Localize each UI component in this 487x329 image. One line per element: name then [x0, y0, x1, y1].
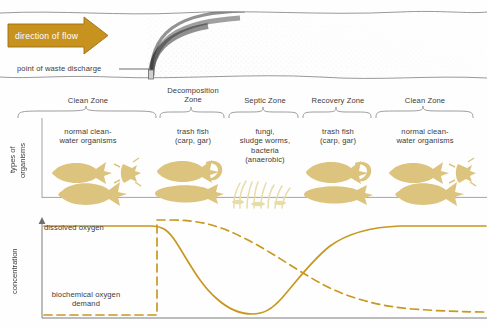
zone-title-3: Recovery Zone [312, 96, 365, 105]
bod-label: biochemical oxygen demand [36, 290, 136, 309]
organism-label-4: normal clean- water organisms [396, 127, 453, 146]
organism-label-3: trash fish (carp, gar) [320, 127, 356, 146]
organism-label-0: normal clean- water organisms [59, 127, 116, 146]
river-panel [0, 0, 487, 95]
fish-icon [389, 162, 449, 184]
zone-title-0: Clean Zone [68, 96, 108, 105]
zone-title-1: Decomposition Zone [167, 86, 219, 105]
mayfly-nymph-icon [114, 158, 141, 186]
mayfly-nymph-icon [449, 158, 476, 186]
zone-title-2: Septic Zone [244, 96, 286, 105]
gar-fish-icon [155, 184, 224, 204]
gar-fish-icon [304, 185, 373, 205]
organism-silhouettes [0, 152, 487, 214]
water-pollution-zones-diagram: direction of flow point of waste dischar… [0, 0, 487, 329]
discharge-pipe [149, 70, 154, 79]
discharge-label: point of waste discharge [17, 64, 101, 73]
fish-icon [52, 162, 112, 184]
fish-icon [58, 182, 127, 206]
flow-arrow-label: direction of flow [15, 31, 78, 41]
dissolved-oxygen-label: dissolved oxygen [44, 223, 104, 232]
fish-icon [395, 182, 464, 206]
organism-label-1: trash fish (carp, gar) [175, 127, 211, 146]
zone-title-4: Clean Zone [405, 96, 445, 105]
pollution-plume-icon [148, 8, 487, 88]
